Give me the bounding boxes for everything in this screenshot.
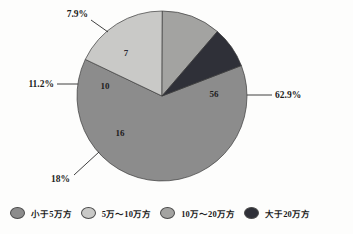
callout-bottom-left: 18% (51, 174, 70, 184)
slice-value-1: 16 (116, 128, 126, 138)
legend-item-2[interactable]: 10万～20万方 (160, 207, 235, 219)
legend-label-1: 5万～10万方 (102, 207, 151, 219)
leader-line-bottom-left (74, 152, 99, 175)
legend-swatch-icon-0 (10, 207, 25, 219)
slice-value-3: 7 (124, 48, 129, 58)
legend-label-3: 大于20万方 (265, 207, 310, 219)
legend-item-0[interactable]: 小于5万方 (10, 207, 72, 219)
leader-line-top-left (91, 20, 108, 32)
legend-label-0: 小于5万方 (31, 207, 72, 219)
pie-chart-canvas: 62.9% 18% 11.2% 7.9% 56 16 10 7 (0, 0, 353, 234)
callout-left: 11.2% (28, 79, 54, 89)
legend-label-2: 10万～20万方 (181, 207, 235, 219)
callout-right: 62.9% (275, 90, 301, 100)
legend-swatch-icon-2 (160, 207, 175, 219)
chart-legend: 小于5万方 5万～10万方 10万～20万方 大于20万方 (0, 200, 353, 226)
legend-swatch-icon-3 (244, 207, 259, 219)
pie-chart-figure: 62.9% 18% 11.2% 7.9% 56 16 10 7 小于5万方 5万… (0, 0, 353, 234)
callout-top-left: 7.9% (67, 9, 88, 19)
slice-value-0: 56 (210, 89, 220, 99)
legend-item-1[interactable]: 5万～10万方 (81, 207, 151, 219)
legend-swatch-icon-1 (81, 207, 96, 219)
legend-item-3[interactable]: 大于20万方 (244, 207, 310, 219)
slice-value-2: 10 (101, 81, 111, 91)
